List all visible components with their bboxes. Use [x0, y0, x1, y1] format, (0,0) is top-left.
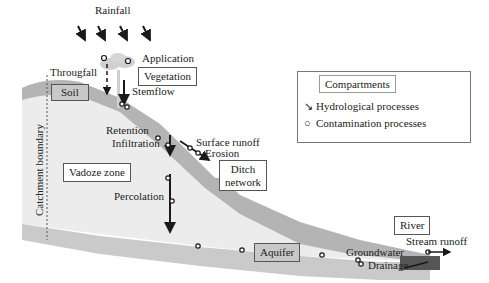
retention-label: Retention: [106, 125, 149, 136]
ditch-line2: network: [225, 176, 261, 189]
soil-compartment: Soil: [51, 84, 89, 101]
througfall-label: Througfall: [50, 67, 97, 78]
ditch-network-compartment: Ditch network: [219, 160, 267, 191]
circle-icon: ○: [304, 117, 316, 129]
legend: Compartments ↘Hydrological processes ○Co…: [297, 71, 471, 143]
aquifer-compartment: Aquifer: [254, 243, 300, 262]
stream-runoff-label: Stream runoff: [406, 236, 467, 247]
erosion-label: Erosion: [205, 148, 239, 159]
infiltration-label: Infiltration: [112, 138, 160, 149]
arrow-icon: ↘: [304, 100, 316, 113]
legend-title: Compartments: [319, 75, 396, 93]
river-compartment: River: [394, 216, 430, 235]
stemflow-label: Stemflow: [132, 86, 175, 97]
vadoze-zone-compartment: Vadoze zone: [63, 163, 131, 182]
legend-contamination: ○Contamination processes: [304, 117, 426, 129]
catchment-boundary-label: Catchment boundary: [33, 124, 45, 216]
vegetation-compartment: Vegetation: [138, 67, 197, 86]
drainage-label: Drainage: [368, 260, 408, 271]
legend-hydrological: ↘Hydrological processes: [304, 100, 419, 113]
groundwater-label: Groundwater: [346, 247, 404, 258]
application-label: Application: [142, 53, 194, 64]
rainfall-label: Rainfall: [95, 5, 130, 16]
percolation-label: Percolation: [114, 191, 164, 202]
ditch-line1: Ditch: [225, 163, 261, 176]
